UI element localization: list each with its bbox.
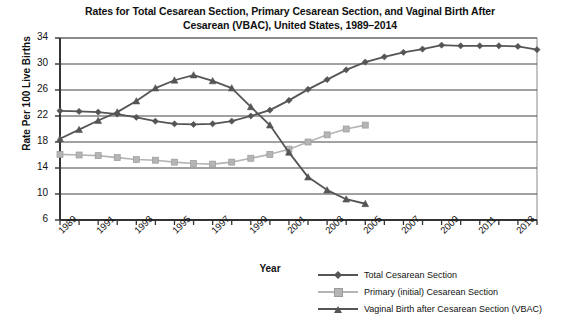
data-point-diamond: [133, 114, 139, 120]
legend-label: Primary (initial) Cesarean Section: [364, 287, 498, 297]
data-point-diamond: [267, 107, 273, 113]
data-point-diamond: [419, 46, 425, 52]
legend-label: Total Cesarean Section: [364, 270, 457, 280]
data-point-square: [76, 152, 82, 158]
y-tick-label: 30: [22, 57, 48, 68]
chart-title-line-2: Cesarean (VBAC), United States, 1989–201…: [40, 18, 540, 32]
data-point-diamond: [324, 77, 330, 83]
data-point-square: [324, 132, 330, 138]
data-point-diamond: [534, 47, 540, 53]
data-point-square: [229, 159, 235, 165]
data-point-triangle: [114, 109, 121, 115]
legend-item-1[interactable]: Total Cesarean Section: [318, 266, 542, 283]
data-point-square: [152, 157, 158, 163]
data-point-square: [191, 160, 197, 166]
series-2: [57, 122, 368, 167]
series-line: [60, 125, 365, 164]
legend-swatch-triangle-icon: [318, 303, 358, 315]
data-point-diamond: [229, 118, 235, 124]
legend-marker-square-icon: [334, 288, 343, 297]
data-point-diamond: [152, 118, 158, 124]
chart-title: Rates for Total Cesarean Section, Primar…: [40, 4, 540, 32]
data-point-square: [171, 159, 177, 165]
legend-swatch-square-icon: [318, 286, 358, 298]
legend-swatch-diamond-icon: [318, 269, 358, 281]
data-point-square: [362, 122, 368, 128]
legend-item-3[interactable]: Vaginal Birth after Cesarean Section (VB…: [318, 300, 542, 317]
data-point-diamond: [439, 42, 445, 48]
data-point-diamond: [57, 108, 63, 114]
y-tick-label: 22: [22, 109, 48, 120]
data-point-diamond: [248, 113, 254, 119]
series-line: [60, 45, 537, 124]
data-point-square: [114, 155, 120, 161]
data-point-square: [133, 157, 139, 163]
y-tick-label: 14: [22, 161, 48, 172]
y-tick-label: 6: [22, 213, 48, 224]
legend-marker-triangle-icon: [334, 306, 342, 313]
data-point-diamond: [343, 67, 349, 73]
data-point-diamond: [458, 43, 464, 49]
series-1: [57, 42, 540, 128]
data-point-diamond: [515, 43, 521, 49]
data-point-square: [248, 155, 254, 161]
data-point-diamond: [400, 49, 406, 55]
data-point-diamond: [190, 121, 196, 127]
legend-label: Vaginal Birth after Cesarean Section (VB…: [364, 304, 542, 314]
series-line: [60, 75, 365, 204]
data-point-diamond: [381, 54, 387, 60]
data-point-diamond: [76, 108, 82, 114]
plot-frame: [60, 38, 537, 220]
legend-marker-diamond-icon: [334, 270, 342, 278]
y-tick-label: 10: [22, 187, 48, 198]
y-tick-label: 18: [22, 135, 48, 146]
chart-legend: Total Cesarean SectionPrimary (initial) …: [318, 266, 542, 317]
chart-title-line-1: Rates for Total Cesarean Section, Primar…: [40, 4, 540, 18]
data-point-diamond: [171, 121, 177, 127]
data-point-square: [57, 151, 63, 157]
data-point-diamond: [95, 109, 101, 115]
data-point-square: [305, 139, 311, 145]
data-point-diamond: [477, 43, 483, 49]
y-tick-label: 26: [22, 83, 48, 94]
data-point-square: [343, 126, 349, 132]
legend-item-2[interactable]: Primary (initial) Cesarean Section: [318, 283, 542, 300]
y-tick-label: 34: [22, 31, 48, 42]
data-point-square: [267, 151, 273, 157]
series-3: [57, 72, 369, 207]
data-point-diamond: [496, 43, 502, 49]
chart-figure: Rates for Total Cesarean Section, Primar…: [0, 0, 573, 323]
data-point-square: [210, 161, 216, 167]
data-point-square: [95, 153, 101, 159]
data-point-diamond: [210, 121, 216, 127]
